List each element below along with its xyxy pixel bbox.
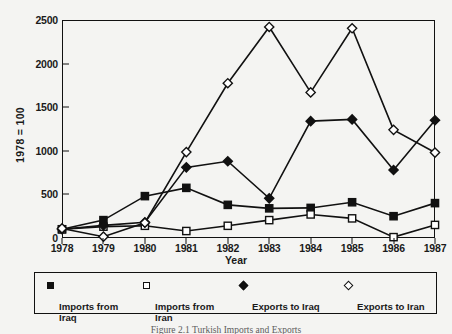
x-axis-title: Year xyxy=(225,254,247,266)
legend-label-exports-to-iran: Exports to Iran xyxy=(357,302,425,313)
legend-item-exports-to-iraq[interactable]: Exports to Iraq xyxy=(240,281,320,323)
x-tick-label-1983: 1983 xyxy=(258,242,281,254)
open-diamond-icon xyxy=(344,281,354,291)
figure-caption: Figure 2.1 Turkish Imports and Exports xyxy=(0,325,452,334)
x-tick-label-1978: 1978 xyxy=(51,242,74,254)
x-tick-label-1984: 1984 xyxy=(299,242,322,254)
x-tick-label-1986: 1986 xyxy=(382,242,405,254)
x-tick-label-1982: 1982 xyxy=(217,242,240,254)
x-tick-label-1981: 1981 xyxy=(175,242,198,254)
y-tick-label-500: 500 xyxy=(41,188,58,200)
y-tick-label-2000: 2000 xyxy=(35,58,58,70)
figure-root: 1978 = 100 2500 2000 1500 1000 500 0 197… xyxy=(0,0,452,334)
x-tick-label-1985: 1985 xyxy=(341,242,364,254)
legend-label-imports-from-iran: Imports from Iran xyxy=(155,302,214,323)
x-axis-title-wrap: Year xyxy=(0,254,452,266)
legend: Imports from Iraq Imports from Iran Expo… xyxy=(34,272,437,314)
x-tick-label-1980: 1980 xyxy=(134,242,157,254)
x-tick-label-1987: 1987 xyxy=(424,242,447,254)
legend-label-imports-from-iraq: Imports from Iraq xyxy=(59,302,118,323)
y-tick-label-2500: 2500 xyxy=(35,14,58,26)
filled-diamond-icon xyxy=(239,281,249,291)
plot-area-frame xyxy=(62,20,435,238)
y-tick-label-1500: 1500 xyxy=(35,101,58,113)
filled-square-icon xyxy=(47,282,54,289)
open-square-icon xyxy=(143,282,150,289)
legend-entries: Imports from Iraq Imports from Iran Expo… xyxy=(35,273,436,313)
legend-label-exports-to-iraq: Exports to Iraq xyxy=(252,302,320,313)
x-tick-label-1979: 1979 xyxy=(92,242,115,254)
legend-item-exports-to-iran[interactable]: Exports to Iran xyxy=(345,281,425,323)
y-tick-label-1000: 1000 xyxy=(35,145,58,157)
